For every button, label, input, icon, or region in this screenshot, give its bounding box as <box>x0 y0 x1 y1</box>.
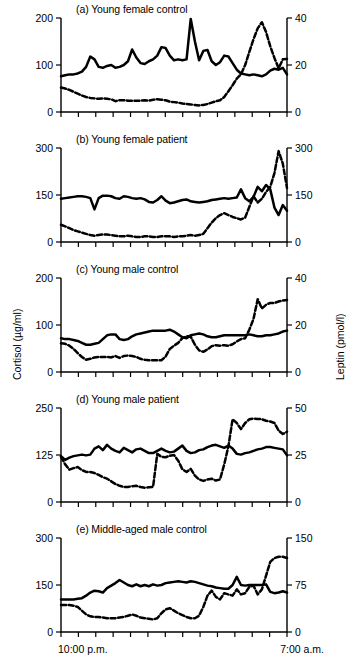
y-axis-label-right: Leptin (pmol/l) <box>334 313 346 380</box>
panel-d: (d) Young male patient 012525002550 <box>0 390 346 520</box>
y-tick-label-left: 200 <box>35 12 53 24</box>
figure-panel-stack: (a) Young female control 010020002040 (b… <box>0 0 346 659</box>
y-tick-label-left: 300 <box>35 142 53 154</box>
panel-d-title: (d) Young male patient <box>76 393 179 405</box>
cortisol-series-line <box>61 577 287 600</box>
panel-d-plot: 012525002550 <box>0 390 346 520</box>
cortisol-series-line <box>61 445 287 460</box>
y-tick-label-left: 0 <box>47 496 53 508</box>
y-tick-label-left: 200 <box>35 272 53 284</box>
cortisol-series-line <box>61 330 287 345</box>
x-axis-start-label: 10:00 p.m. <box>58 643 108 655</box>
y-tick-label-left: 300 <box>35 532 53 544</box>
panel-b-plot: 01503000150300 <box>0 130 346 260</box>
y-tick-label-right: 75 <box>295 579 307 591</box>
panel-e-title: (e) Middle-aged male control <box>76 523 207 535</box>
panel-c-title: (c) Young male control <box>76 263 178 275</box>
y-axis-label-left: Cortisol (µg/ml) <box>11 309 23 380</box>
panel-a-plot: 010020002040 <box>0 0 346 130</box>
leptin-series-line <box>61 22 287 105</box>
y-tick-label-left: 125 <box>35 449 53 461</box>
leptin-series-line <box>61 557 287 620</box>
panel-b-title: (b) Young female patient <box>76 133 187 145</box>
y-tick-label-left: 250 <box>35 402 53 414</box>
y-tick-label-right: 25 <box>295 449 307 461</box>
y-tick-label-right: 0 <box>295 106 301 118</box>
panel-a-title: (a) Young female control <box>76 3 187 15</box>
y-tick-label-left: 0 <box>47 106 53 118</box>
y-tick-label-left: 150 <box>35 579 53 591</box>
y-tick-label-right: 150 <box>295 532 313 544</box>
leptin-series-line <box>61 299 287 360</box>
y-tick-label-right: 300 <box>295 142 313 154</box>
y-tick-label-right: 0 <box>295 366 301 378</box>
panel-e: (e) Middle-aged male control 01503000751… <box>0 520 346 659</box>
y-tick-label-left: 0 <box>47 626 53 638</box>
y-tick-label-right: 50 <box>295 402 307 414</box>
y-tick-label-right: 20 <box>295 59 307 71</box>
y-tick-label-left: 0 <box>47 236 53 248</box>
y-tick-label-left: 150 <box>35 189 53 201</box>
x-axis-end-label: 7:00 a.m. <box>280 643 324 655</box>
y-tick-label-right: 40 <box>295 12 307 24</box>
y-tick-label-left: 100 <box>35 319 53 331</box>
cortisol-series-line <box>61 19 287 76</box>
y-tick-label-left: 100 <box>35 59 53 71</box>
leptin-series-line <box>61 419 287 488</box>
y-tick-label-right: 150 <box>295 189 313 201</box>
panel-b: (b) Young female patient 01503000150300 <box>0 130 346 260</box>
y-tick-label-right: 0 <box>295 496 301 508</box>
panel-c-plot: 010020002040 <box>0 260 346 390</box>
panel-a: (a) Young female control 010020002040 <box>0 0 346 130</box>
y-tick-label-right: 20 <box>295 319 307 331</box>
y-tick-label-left: 0 <box>47 366 53 378</box>
panel-e-plot: 0150300075150 <box>0 520 346 650</box>
y-tick-label-right: 0 <box>295 626 301 638</box>
panel-c: (c) Young male control 010020002040 <box>0 260 346 390</box>
leptin-series-line <box>61 151 287 237</box>
y-tick-label-right: 40 <box>295 272 307 284</box>
y-tick-label-right: 0 <box>295 236 301 248</box>
